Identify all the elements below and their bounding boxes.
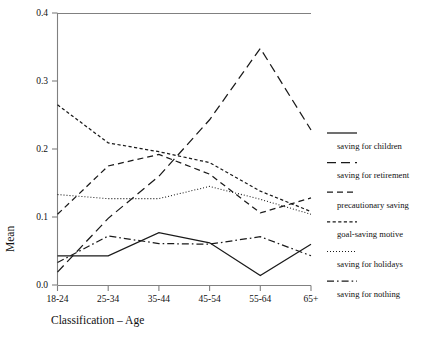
series-line-saving-for-nothing	[58, 236, 312, 263]
legend-label: saving for nothing	[337, 289, 401, 299]
y-axis-title: Mean	[4, 226, 16, 252]
chart-legend: saving for childrensaving for retirement…	[327, 133, 410, 299]
y-tick-label: 0.2	[36, 144, 48, 154]
line-chart-svg: 0.00.10.20.30.4 18-2425-3435-4445-5455-6…	[0, 0, 443, 348]
y-tick-group: 0.00.10.20.30.4	[36, 8, 57, 290]
series-line-saving-for-children	[58, 233, 312, 276]
axes-group	[58, 13, 312, 286]
legend-label: precautionary saving	[337, 200, 410, 210]
legend-label: saving for children	[337, 141, 403, 151]
legend-label: saving for retirement	[337, 170, 410, 180]
x-axis-title: Classification – Age	[51, 314, 144, 327]
y-tick-label: 0.3	[36, 76, 48, 86]
chart-figure: 0.00.10.20.30.4 18-2425-3435-4445-5455-6…	[0, 0, 443, 348]
x-tick-label: 35-44	[148, 294, 170, 304]
series-line-saving-for-holidays	[58, 186, 312, 214]
series-group	[58, 48, 312, 275]
x-tick-label: 45-54	[199, 294, 221, 304]
series-line-saving-for-retirement	[58, 48, 312, 272]
y-tick-label: 0.0	[36, 280, 48, 290]
legend-label: saving for holidays	[337, 259, 404, 269]
legend-label: goal-saving motive	[337, 229, 403, 239]
x-tick-label: 55-64	[249, 294, 271, 304]
x-tick-label: 65+	[304, 294, 319, 304]
x-tick-group: 18-2425-3435-4445-5455-6465+	[46, 286, 318, 305]
series-line-precautionary-saving	[58, 154, 312, 214]
x-tick-label: 18-24	[46, 294, 68, 304]
y-tick-label: 0.1	[36, 212, 48, 222]
y-tick-label: 0.4	[36, 8, 48, 18]
x-tick-label: 25-34	[97, 294, 119, 304]
series-line-goal-saving-motive	[58, 105, 312, 212]
